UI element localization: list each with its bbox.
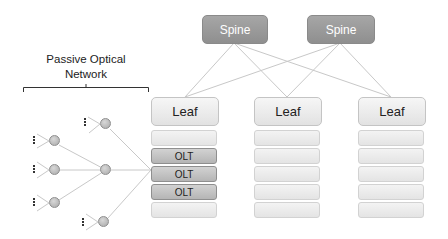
leaf-label: Leaf — [275, 104, 300, 119]
rack-slot — [254, 148, 320, 164]
link-spine2-leaf3 — [340, 43, 391, 97]
rack-slot — [358, 184, 424, 200]
ellipsis-icon — [84, 118, 86, 127]
rack-slot — [358, 130, 424, 146]
rack-slot — [358, 202, 424, 218]
spine-label: Spine — [326, 23, 357, 37]
splitter-node-left-2 — [49, 164, 60, 175]
splitter-node-left-1 — [49, 135, 60, 146]
splitter-node-top — [100, 118, 111, 129]
spine-switch-2: Spine — [307, 15, 375, 44]
leaf-switch-3: Leaf — [358, 97, 426, 126]
rack-2 — [254, 130, 320, 220]
pon-title-line1: Passive Optical — [26, 52, 146, 67]
leaf-label: Leaf — [172, 104, 197, 119]
leaf-label: Leaf — [379, 104, 404, 119]
rack-slot — [358, 148, 424, 164]
olt-slot: OLT — [151, 166, 217, 182]
rack-slot — [254, 130, 320, 146]
rack-1: OLT OLT OLT — [151, 130, 217, 220]
olt-slot: OLT — [151, 148, 217, 164]
leaf-switch-1: Leaf — [151, 97, 219, 126]
link-spine1-leaf3 — [234, 43, 391, 97]
pon-bracket — [24, 84, 149, 92]
link-spine1-leaf2 — [234, 43, 287, 97]
pon-title-line2: Network — [26, 67, 146, 82]
splitter-node-center — [100, 164, 111, 175]
splitter-node-bottom — [98, 216, 109, 227]
splitter-node-left-3 — [49, 197, 60, 208]
ellipsis-icon — [82, 218, 84, 227]
rack-slot — [151, 130, 217, 146]
rack-slot — [254, 166, 320, 182]
pon-title: Passive Optical Network — [26, 52, 146, 82]
rack-slot — [358, 166, 424, 182]
rack-3 — [358, 130, 424, 220]
leaf-switch-2: Leaf — [254, 97, 322, 126]
ellipsis-icon — [33, 136, 35, 145]
rack-slot — [254, 184, 320, 200]
rack-slot — [254, 202, 320, 218]
link-spine2-leaf1 — [185, 43, 340, 97]
spine-label: Spine — [220, 23, 251, 37]
olt-slot: OLT — [151, 184, 217, 200]
spine-switch-1: Spine — [202, 15, 268, 44]
ellipsis-icon — [33, 165, 35, 174]
link-spine2-leaf2 — [287, 43, 340, 97]
ellipsis-icon — [33, 198, 35, 207]
rack-slot — [151, 202, 217, 218]
